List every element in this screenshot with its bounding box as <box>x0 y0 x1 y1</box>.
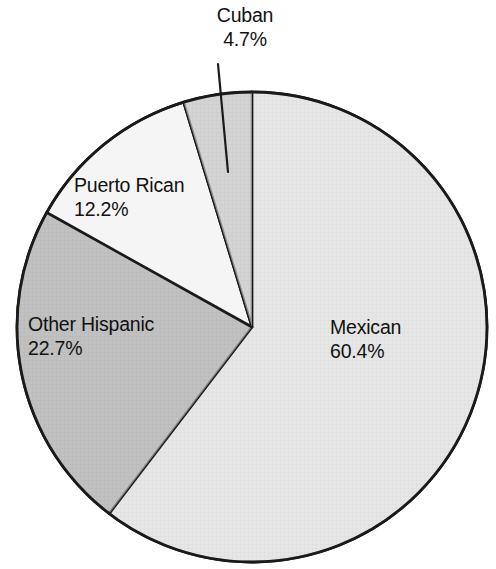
slice-label-puerto-rican: Puerto Rican 12.2% <box>74 173 184 221</box>
pie-chart-figure: Cuban 4.7% Puerto Rican 12.2% Other Hisp… <box>0 0 496 569</box>
slice-label-mexican: Mexican 60.4% <box>330 315 401 363</box>
slice-label-other-hispanic-name: Other Hispanic <box>28 312 154 336</box>
slice-label-puerto-rican-value: 12.2% <box>74 197 184 221</box>
slice-label-other-hispanic: Other Hispanic 22.7% <box>28 312 154 360</box>
slice-label-cuban-name: Cuban <box>189 3 301 27</box>
slice-label-mexican-value: 60.4% <box>330 339 401 363</box>
slice-label-cuban: Cuban 4.7% <box>189 3 301 51</box>
slice-label-other-hispanic-value: 22.7% <box>28 336 154 360</box>
slice-label-puerto-rican-name: Puerto Rican <box>74 173 184 197</box>
slice-label-cuban-value: 4.7% <box>189 27 301 51</box>
slice-label-mexican-name: Mexican <box>330 315 401 339</box>
pie-chart-canvas <box>0 0 496 569</box>
